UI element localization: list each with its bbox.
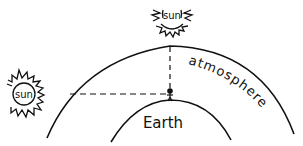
observer-figure-icon [167, 89, 173, 101]
earth-label: Earth [143, 114, 183, 132]
atmosphere-label-path: atmosphere [187, 52, 271, 110]
sun-horizon-label: sun [15, 89, 33, 100]
atmosphere-path-diagram: sun sun Earth atmosphere [0, 0, 303, 146]
atmosphere-label: atmosphere [187, 52, 271, 110]
sun-overhead-label: sun [163, 10, 181, 21]
